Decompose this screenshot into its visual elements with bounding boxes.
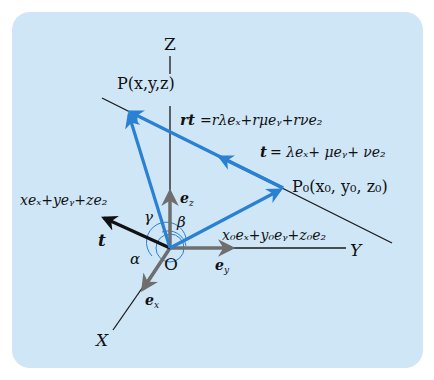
t-along-line xyxy=(220,157,283,188)
ez-label: ez xyxy=(180,190,194,208)
op-vector xyxy=(129,115,170,248)
ex-label: ex xyxy=(145,292,159,310)
t-vector-label: t xyxy=(98,230,106,250)
op-vector-label: xeₓ+yeᵧ+ze₂ xyxy=(20,192,108,208)
op0-vector-label: x₀eₓ+y₀eᵧ+z₀e₂ xyxy=(222,227,327,243)
rt-equation: =rλeₓ+rμeᵧ+rνe₂ xyxy=(200,112,323,128)
origin-label: O xyxy=(164,254,178,274)
y-axis-label: Y xyxy=(350,240,363,260)
angle-gamma: γ xyxy=(144,208,153,226)
point-p-label: P(x,y,z) xyxy=(117,74,175,93)
rt-label: rt xyxy=(180,111,195,129)
angle-beta: β xyxy=(176,213,186,231)
x-axis-label: X xyxy=(94,330,109,350)
t-vector xyxy=(104,218,170,248)
angle-alpha: α xyxy=(130,250,140,268)
ey-label: ey xyxy=(215,257,230,275)
z-axis-label: Z xyxy=(164,34,176,54)
vector-diagram: Z Y X O P(x,y,z) P₀(x₀, y₀, z₀) rt =rλeₓ… xyxy=(0,0,434,380)
point-p0-label: P₀(x₀, y₀, z₀) xyxy=(292,177,388,196)
t-equation: = λeₓ+ μeᵧ+ νe₂ xyxy=(270,144,386,160)
t-label-eq: t xyxy=(260,143,267,161)
